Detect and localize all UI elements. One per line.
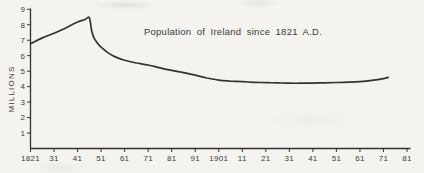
scanned-chart-page: Population of Ireland since 1821 A.D. MI… <box>0 0 424 173</box>
x-tick-label: 61 <box>120 154 130 163</box>
x-tick-label: 41 <box>73 154 83 163</box>
x-tick-label: 71 <box>143 154 153 163</box>
y-tick-label: 3 <box>21 98 26 107</box>
x-tick-label: 81 <box>402 154 412 163</box>
x-tick-label: 81 <box>167 154 177 163</box>
y-tick-label: 7 <box>21 36 26 45</box>
x-tick-label: 1901 <box>209 154 228 163</box>
axes <box>31 9 411 149</box>
y-tick-label: 6 <box>21 52 26 61</box>
y-tick-label: 5 <box>21 67 26 76</box>
y-tick-label: 1 <box>21 129 26 138</box>
y-tick-label: 2 <box>21 113 26 122</box>
y-tick-label: 9 <box>21 5 26 14</box>
x-tick-label: 31 <box>285 154 295 163</box>
x-tick-label: 71 <box>379 154 389 163</box>
x-tick-label: 51 <box>332 154 342 163</box>
x-tick-label: 1821 <box>21 154 40 163</box>
x-tick-label: 11 <box>238 154 247 163</box>
x-tick-label: 31 <box>49 154 59 163</box>
x-tick-label: 21 <box>261 154 271 163</box>
y-tick-label: 8 <box>21 21 26 30</box>
x-tick-label: 51 <box>96 154 106 163</box>
x-tick-label: 91 <box>190 154 200 163</box>
population-line-chart: 1234567891821314151617181911901112131415… <box>0 0 424 173</box>
x-tick-label: 41 <box>308 154 318 163</box>
y-tick-label: 4 <box>21 82 26 91</box>
population-line <box>31 17 389 83</box>
x-tick-label: 61 <box>355 154 365 163</box>
